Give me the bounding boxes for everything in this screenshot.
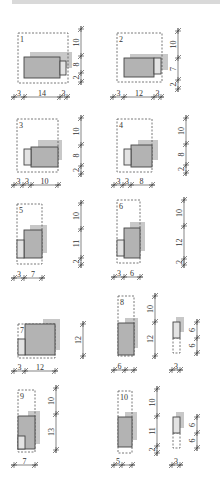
main-building-block xyxy=(24,57,60,78)
main-building-block xyxy=(31,147,58,167)
plan-variant-7: 712312 xyxy=(11,319,86,374)
dimension-label: 3 xyxy=(17,89,21,98)
dimension-label: 12 xyxy=(135,89,143,98)
plan-variant-1: 110823143 xyxy=(11,26,84,100)
horizontal-dimension-line: 338 xyxy=(111,177,155,189)
annex-block xyxy=(60,61,66,75)
annex-block xyxy=(24,149,31,165)
dimension-label: 6 xyxy=(188,328,197,332)
vertical-dimension-line: 1082 xyxy=(177,115,189,176)
dimension-label: 7 xyxy=(31,270,35,279)
detail-unit-8b: 663 xyxy=(169,317,200,373)
unit-block xyxy=(173,417,180,433)
variant-number: 5 xyxy=(19,206,23,215)
variant-number: 10 xyxy=(120,393,128,402)
dimension-label: 3 xyxy=(117,177,121,186)
dimension-label: 6 xyxy=(188,423,197,427)
plan-variant-9: 910137 xyxy=(11,385,59,468)
vertical-dimension-line: 1082 xyxy=(72,115,84,177)
dimension-label: 2 xyxy=(169,83,178,87)
annex-block xyxy=(154,58,161,74)
dimension-label: 10 xyxy=(72,39,81,47)
vertical-dimension-line: 1012 xyxy=(146,293,158,359)
dimension-label: 5 xyxy=(116,457,120,466)
dimension-label: 10 xyxy=(148,399,157,407)
horizontal-dimension-line: 7 xyxy=(11,457,38,469)
horizontal-dimension-line: 6 xyxy=(111,362,137,374)
dimension-label: 2 xyxy=(148,448,157,452)
plan-variant-5: 51011237 xyxy=(11,200,84,281)
dimension-label: 8 xyxy=(177,153,186,157)
variant-number: 8 xyxy=(120,298,124,307)
dimension-label: 13 xyxy=(47,428,56,436)
dimension-label: 11 xyxy=(72,240,81,248)
dimension-label: 8 xyxy=(140,177,144,186)
dashed-extension xyxy=(173,433,180,448)
dimension-label: 10 xyxy=(169,41,178,49)
dimension-label: 14 xyxy=(38,89,46,98)
dimension-label: 3 xyxy=(117,269,121,278)
annex-block xyxy=(18,339,25,355)
horizontal-dimension-line: 3 xyxy=(169,457,183,469)
annex-block xyxy=(124,149,131,165)
plan-variant-2: 210723123 xyxy=(110,28,181,100)
annex-block xyxy=(117,240,124,256)
plan-variant-3: 310823310 xyxy=(11,115,84,188)
dimension-label: 11 xyxy=(148,427,157,435)
dimension-label: 3 xyxy=(156,89,160,98)
variant-number: 6 xyxy=(119,202,123,211)
vertical-dimension-line: 1082 xyxy=(72,26,84,85)
main-building-block xyxy=(131,145,152,167)
dimension-label: 10 xyxy=(72,128,81,136)
vertical-dimension-line: 1072 xyxy=(169,28,181,92)
plan-variant-10: 10101125 xyxy=(111,386,160,468)
plan-variant-6: 61012236 xyxy=(111,197,187,280)
dimension-label: 6 xyxy=(188,439,197,443)
dimension-label: 3 xyxy=(174,362,178,371)
plan-variant-4: 41082338 xyxy=(111,115,189,188)
plan-variant-8: 810126 xyxy=(111,293,158,373)
variant-number: 9 xyxy=(20,392,24,401)
dimension-label: 3 xyxy=(125,177,129,186)
dimension-label: 12 xyxy=(74,336,83,344)
main-building-block xyxy=(24,230,42,258)
annex-block xyxy=(18,436,25,449)
dimension-label: 3 xyxy=(17,270,21,279)
dimension-label: 10 xyxy=(47,397,56,405)
horizontal-dimension-line: 36 xyxy=(111,269,143,281)
dimension-label: 2 xyxy=(72,260,81,264)
horizontal-dimension-line: 3123 xyxy=(110,89,164,101)
dimension-label: 6 xyxy=(188,344,197,348)
dimension-label: 6 xyxy=(118,362,122,371)
dimension-label: 10 xyxy=(175,209,184,217)
dimension-label: 8 xyxy=(72,154,81,158)
variant-number: 2 xyxy=(119,35,123,44)
dimension-label: 10 xyxy=(41,177,49,186)
main-building-block xyxy=(118,323,134,355)
vertical-dimension-line: 1013 xyxy=(47,385,59,453)
horizontal-dimension-line: 3143 xyxy=(11,89,70,101)
dimension-label: 12 xyxy=(175,239,184,247)
horizontal-dimension-line: 312 xyxy=(11,363,58,375)
dimension-label: 8 xyxy=(72,63,81,67)
dimension-label: 2 xyxy=(177,167,186,171)
vertical-dimension-line: 10112 xyxy=(148,386,160,456)
horizontal-dimension-line: 37 xyxy=(11,270,45,282)
variant-number: 4 xyxy=(119,121,123,130)
horizontal-dimension-line: 5 xyxy=(111,457,135,469)
dimension-label: 12 xyxy=(146,335,155,343)
dimension-label: 2 xyxy=(175,260,184,264)
variant-number: 7 xyxy=(20,326,24,335)
dimension-label: 7 xyxy=(169,67,178,71)
dimension-label: 10 xyxy=(146,305,155,313)
dimension-label: 3 xyxy=(174,457,178,466)
floor-plan-diagram: 1108231432107231233108233104108233851011… xyxy=(0,0,220,493)
horizontal-dimension-line: 3310 xyxy=(11,177,61,189)
detail-unit-10b: 663 xyxy=(169,412,200,468)
vertical-dimension-line: 10122 xyxy=(175,197,187,268)
dimension-label: 3 xyxy=(18,363,22,372)
variant-number: 1 xyxy=(20,35,24,44)
main-building-block xyxy=(124,228,140,258)
vertical-dimension-line: 66 xyxy=(188,319,200,356)
dimension-label: 3 xyxy=(117,89,121,98)
